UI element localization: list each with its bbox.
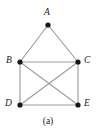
graph-vertex-d (17, 102, 22, 107)
vertex-label-e: E (84, 99, 90, 109)
vertex-label-b: B (6, 56, 12, 66)
graph-edge-a-b (20, 25, 48, 62)
graph-vertex-b (17, 59, 22, 64)
graph-edge-a-c (48, 25, 78, 62)
vertex-label-c: C (84, 56, 90, 66)
vertex-group (17, 22, 80, 107)
vertex-label-a: A (44, 8, 50, 18)
graph-vertex-c (75, 59, 80, 64)
graph-vertex-e (75, 102, 80, 107)
graph-canvas (0, 0, 96, 132)
graph-vertex-a (45, 22, 50, 27)
figure-caption: (a) (0, 116, 96, 127)
graph-figure: ABCDE (a) (0, 0, 96, 132)
edge-group (20, 25, 78, 105)
vertex-label-d: D (5, 99, 12, 109)
